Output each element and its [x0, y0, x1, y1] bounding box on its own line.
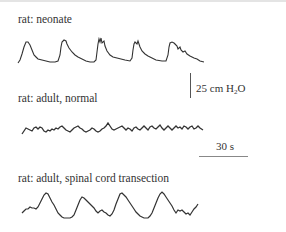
pressure-scale-unit-tail: O: [237, 82, 245, 94]
time-scale-bar: [199, 156, 248, 157]
pressure-scale-label: 25 cm H2O: [196, 83, 245, 96]
trace-adult-transection: [22, 192, 198, 218]
respiratory-traces: [0, 0, 286, 232]
trace-neonate: [18, 38, 204, 63]
trace-adult-normal: [22, 123, 203, 134]
time-scale-label: 30 s: [216, 141, 234, 152]
panel-label-adult-transection: rat: adult, spinal cord transection: [18, 173, 169, 185]
pressure-scale-bar: [190, 73, 191, 98]
panel-label-adult-normal: rat: adult, normal: [18, 93, 98, 105]
pressure-scale-value: 25 cm H: [196, 82, 234, 94]
